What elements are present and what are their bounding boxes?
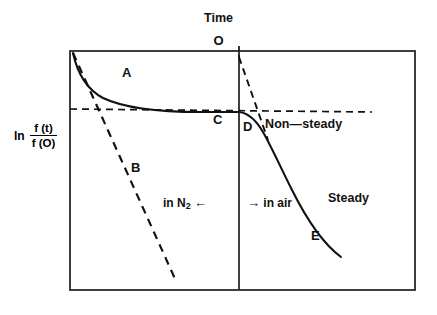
curve-e-solid bbox=[239, 112, 341, 257]
curve-label-b: B bbox=[131, 161, 140, 174]
air-text: in air bbox=[263, 196, 292, 210]
chart-title: Time bbox=[0, 12, 437, 25]
left-arrow-icon: ← bbox=[194, 195, 207, 210]
annotation-air: → in air bbox=[247, 196, 292, 209]
y-axis-denominator: f (O) bbox=[30, 135, 58, 149]
y-axis-fraction: f (t) f (O) bbox=[30, 122, 58, 149]
annotation-non-steady: Non—steady bbox=[265, 118, 342, 131]
plot-frame bbox=[70, 51, 415, 290]
annotation-nitrogen: in N2 ← bbox=[163, 196, 207, 211]
annotation-steady: Steady bbox=[328, 192, 369, 205]
right-arrow-icon: → bbox=[247, 195, 260, 210]
y-axis-numerator: f (t) bbox=[32, 122, 55, 135]
origin-label: O bbox=[0, 34, 437, 47]
nitrogen-text: in N bbox=[163, 196, 186, 210]
curve-label-a: A bbox=[122, 66, 131, 79]
curve-a-solid bbox=[73, 53, 239, 112]
y-axis-label: ln f (t) f (O) bbox=[14, 122, 57, 149]
curve-label-e: E bbox=[311, 229, 320, 242]
y-axis-operator: ln bbox=[14, 129, 25, 143]
nitrogen-subscript: 2 bbox=[186, 201, 191, 211]
curve-label-c: C bbox=[213, 113, 222, 126]
curve-label-d: D bbox=[243, 120, 252, 133]
